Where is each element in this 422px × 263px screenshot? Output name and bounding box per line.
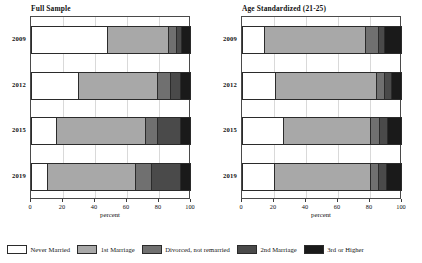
legend-item-2nd-marriage[interactable]: 2nd Marriage [237,245,297,254]
x-axis-full-sample: percent 020406080100 [30,199,190,221]
x-tick-label-40: 40 [91,203,97,210]
panel-full-sample: Full Sample percent 020406080100 2009201… [0,0,211,222]
x-tick-label-80: 80 [155,203,161,210]
bar-segment-divorced-not-remarried[interactable] [136,164,152,190]
legend-swatch-icon [142,245,162,254]
x-tick-80 [369,199,370,202]
bar-segment-never-married[interactable] [32,27,108,53]
y-axis-label-2012: 2012 [12,81,26,88]
y-axis-label-2019: 2019 [223,172,237,179]
x-tick-0 [241,199,242,202]
bar-segment-never-married[interactable] [32,73,79,99]
bar-row-full-sample-2015 [31,117,189,145]
bar-segment-1st-marriage[interactable] [48,164,136,190]
bar-segment-3rd-or-higher[interactable] [181,118,190,144]
bar-segment-1st-marriage[interactable] [275,164,371,190]
x-tick-40 [94,199,95,202]
stacked-bar-2009[interactable] [31,26,191,54]
bar-row-full-sample-2012 [31,72,189,100]
legend-label: Divorced, not remarried [165,246,230,253]
bar-segment-divorced-not-remarried[interactable] [366,27,379,53]
x-tick-label-60: 60 [123,203,129,210]
bar-segment-2nd-marriage[interactable] [171,73,180,99]
y-axis-label-2019: 2019 [12,172,26,179]
stacked-bar-2015[interactable] [31,117,191,145]
stacked-bar-2009[interactable] [242,26,402,54]
bar-row-age-standardized-2009 [242,26,400,54]
x-tick-20 [273,199,274,202]
stacked-bar-2012[interactable] [242,72,402,100]
bar-row-age-standardized-2019 [242,163,400,191]
panel-age-standardized: Age Standardized (21-25) percent 0204060… [211,0,422,222]
stacked-bar-chart-figure: Full Sample percent 020406080100 2009201… [0,0,422,263]
bar-segment-1st-marriage[interactable] [57,118,145,144]
x-tick-label-40: 40 [302,203,308,210]
x-tick-label-100: 100 [396,203,405,210]
bar-segment-2nd-marriage[interactable] [152,164,180,190]
bar-segment-1st-marriage[interactable] [276,73,377,99]
y-axis-label-2015: 2015 [223,126,237,133]
legend-label: 3rd or Higher [327,246,364,253]
panel-title-age-standardized: Age Standardized (21-25) [242,4,326,13]
legend-item-3rd-or-higher[interactable]: 3rd or Higher [304,245,364,254]
x-tick-20 [62,199,63,202]
bar-segment-1st-marriage[interactable] [108,27,170,53]
bar-segment-never-married[interactable] [243,164,275,190]
stacked-bar-2019[interactable] [242,163,402,191]
bar-segment-1st-marriage[interactable] [265,27,366,53]
bar-segment-divorced-not-remarried[interactable] [371,164,379,190]
stacked-bar-2012[interactable] [31,72,191,100]
bar-segment-2nd-marriage[interactable] [380,118,388,144]
legend-swatch-icon [237,245,257,254]
bar-segment-divorced-not-remarried[interactable] [169,27,177,53]
bar-segment-3rd-or-higher[interactable] [392,73,401,99]
bar-segment-3rd-or-higher[interactable] [182,27,190,53]
bar-segment-never-married[interactable] [32,164,48,190]
bar-segment-3rd-or-higher[interactable] [181,73,190,99]
legend-label: 2nd Marriage [260,246,296,253]
bar-segment-1st-marriage[interactable] [284,118,371,144]
bar-row-age-standardized-2015 [242,117,400,145]
y-axis-label-2015: 2015 [12,126,26,133]
bar-segment-1st-marriage[interactable] [79,73,158,99]
bar-segment-never-married[interactable] [243,118,284,144]
stacked-bar-2015[interactable] [242,117,402,145]
plot-area-full-sample [30,16,190,199]
bar-segment-2nd-marriage[interactable] [379,164,387,190]
bar-segment-never-married[interactable] [243,73,276,99]
bar-row-full-sample-2019 [31,163,189,191]
x-tick-label-20: 20 [270,203,276,210]
bar-segment-3rd-or-higher[interactable] [181,164,190,190]
x-axis-title-full-sample: percent [100,211,120,218]
y-axis-label-2012: 2012 [223,81,237,88]
bar-segment-never-married[interactable] [32,118,57,144]
legend-swatch-icon [7,245,27,254]
x-tick-40 [305,199,306,202]
bar-segment-3rd-or-higher[interactable] [385,27,401,53]
legend-item-never-married[interactable]: Never Married [7,245,70,254]
legend-item-divorced-not-remarried[interactable]: Divorced, not remarried [142,245,230,254]
x-tick-60 [337,199,338,202]
bar-segment-divorced-not-remarried[interactable] [377,73,385,99]
bar-segment-never-married[interactable] [243,27,265,53]
legend-label: Never Married [31,246,71,253]
stacked-bar-2019[interactable] [31,163,191,191]
legend-item-1st-marriage[interactable]: 1st Marriage [77,245,135,254]
bar-segment-divorced-not-remarried[interactable] [146,118,159,144]
x-tick-label-0: 0 [239,203,242,210]
x-axis-title-age-standardized: percent [311,211,331,218]
bar-segment-3rd-or-higher[interactable] [388,118,401,144]
bar-segment-3rd-or-higher[interactable] [387,164,401,190]
x-tick-100 [190,199,191,202]
panel-title-full-sample: Full Sample [31,4,71,13]
legend-swatch-icon [304,245,324,254]
bar-segment-2nd-marriage[interactable] [158,118,180,144]
x-tick-100 [401,199,402,202]
bar-segment-divorced-not-remarried[interactable] [371,118,380,144]
x-tick-label-0: 0 [28,203,31,210]
x-tick-label-60: 60 [334,203,340,210]
bar-segment-divorced-not-remarried[interactable] [158,73,171,99]
x-tick-label-100: 100 [185,203,194,210]
y-axis-label-2009: 2009 [223,35,237,42]
x-tick-60 [126,199,127,202]
